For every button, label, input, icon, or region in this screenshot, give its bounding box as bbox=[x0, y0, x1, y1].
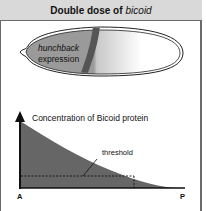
axis-label-anterior: A bbox=[17, 192, 22, 201]
axis-label-posterior: P bbox=[180, 192, 185, 201]
y-axis-arrow-icon bbox=[15, 111, 25, 122]
embryo-label-expression: expression bbox=[38, 54, 79, 64]
embryo-label-gene: hunchback bbox=[38, 43, 79, 53]
diagram-svg bbox=[0, 0, 206, 211]
threshold-label: threshold bbox=[102, 148, 133, 157]
graph-ylabel: Concentration of Bicoid protein bbox=[32, 113, 148, 123]
